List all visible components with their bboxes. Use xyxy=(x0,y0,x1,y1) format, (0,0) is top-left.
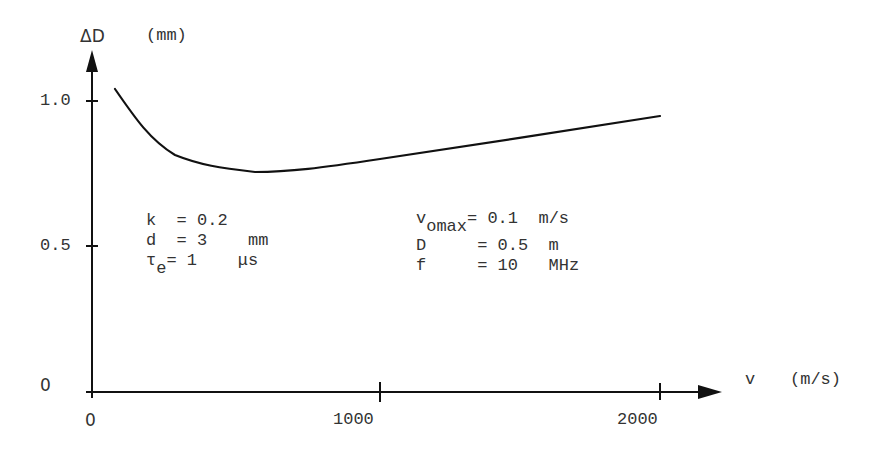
y-tick-label-0.5: 0.5 xyxy=(40,236,71,255)
param-v-omax: vomax= 0.1 m/s xyxy=(416,209,569,229)
v-symbol: v xyxy=(416,209,426,228)
y-tick-label-1.0: 1.0 xyxy=(40,91,71,110)
x-axis-unit: (m/s) xyxy=(790,370,841,389)
param-D: D = 0.5 m xyxy=(416,236,559,256)
x-tick-label-2000: 2000 xyxy=(617,410,658,429)
tau-symbol: τ xyxy=(146,251,156,270)
x-axis-arrow-icon xyxy=(698,385,722,399)
param-k: k = 0.2 xyxy=(146,211,228,231)
y-axis-arrow-icon xyxy=(86,50,98,72)
data-curve xyxy=(115,89,660,172)
param-tau-e: τe= 1 μs xyxy=(146,251,258,271)
x-axis-title: v xyxy=(745,370,755,389)
v-value: = 0.1 m/s xyxy=(467,209,569,228)
y-tick-label-0: 0 xyxy=(40,375,51,395)
tau-subscript: e xyxy=(156,259,166,278)
param-d: d = 3 mm xyxy=(146,231,268,251)
y-axis-unit: (mm) xyxy=(146,26,187,45)
param-f: f = 10 MHz xyxy=(416,256,579,276)
y-axis-title: ΔD xyxy=(80,26,105,46)
x-tick-label-1000: 1000 xyxy=(333,410,374,429)
v-subscript: omax xyxy=(426,217,467,236)
tau-value: = 1 μs xyxy=(166,251,258,270)
x-tick-label-0: 0 xyxy=(85,410,96,430)
